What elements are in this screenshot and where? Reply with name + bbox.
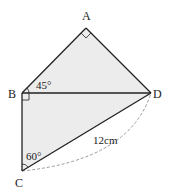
length-label-cd: 12cm: [93, 134, 118, 146]
vertex-label-a: A: [82, 9, 91, 23]
vertex-label-c: C: [15, 176, 23, 190]
angle-label-b: 45°: [36, 79, 51, 91]
vertex-label-d: D: [153, 87, 162, 101]
vertex-label-b: B: [8, 87, 16, 101]
angle-label-c: 60°: [26, 150, 41, 162]
geometry-diagram: A B D C 45° 60° 12cm: [0, 0, 172, 196]
